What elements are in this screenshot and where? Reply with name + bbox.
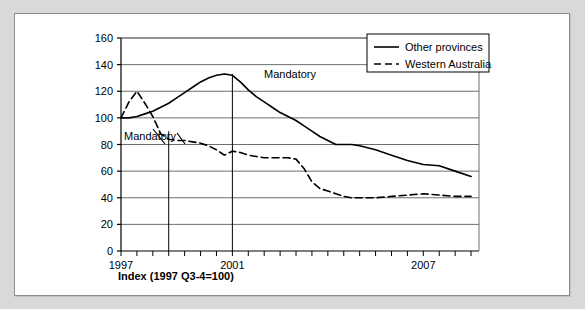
chart-caption: Index (1997 Q3-4=100) <box>118 270 234 282</box>
x-axis-year-label: 2007 <box>411 259 435 271</box>
y-axis-tick-label: 60 <box>101 165 113 177</box>
y-axis-tick-label: 160 <box>95 32 113 44</box>
legend-group: Other provincesWestern Australia <box>367 34 492 72</box>
y-axis-tick-label: 20 <box>101 218 113 230</box>
annotation-leader <box>177 133 185 144</box>
annotation-label: Mandatory <box>264 68 316 80</box>
y-axis-tick-label: 0 <box>107 245 113 257</box>
annotation-label: Mandatory <box>124 130 176 142</box>
x-axis-group: 199720012007 <box>109 251 479 271</box>
y-axis-tick-label: 140 <box>95 59 113 71</box>
caption-group: Index (1997 Q3-4=100) <box>118 270 234 282</box>
y-axis-tick-label: 40 <box>101 192 113 204</box>
legend-label: Western Australia <box>405 58 492 70</box>
y-axis-tick-label: 80 <box>101 139 113 151</box>
figure-white-panel: 020406080100120140160 199720012007 Manda… <box>14 13 570 296</box>
line-chart: 020406080100120140160 199720012007 Manda… <box>1 1 585 309</box>
y-axis-tick-label: 100 <box>95 112 113 124</box>
y-axis-tick-label: 120 <box>95 85 113 97</box>
annotation-labels-group: MandatoryMandatory <box>124 68 316 144</box>
series-line <box>121 74 471 177</box>
figure-outer-frame: 020406080100120140160 199720012007 Manda… <box>0 0 585 309</box>
legend-label: Other provinces <box>405 41 483 53</box>
y-axis-group: 020406080100120140160 <box>95 32 121 257</box>
